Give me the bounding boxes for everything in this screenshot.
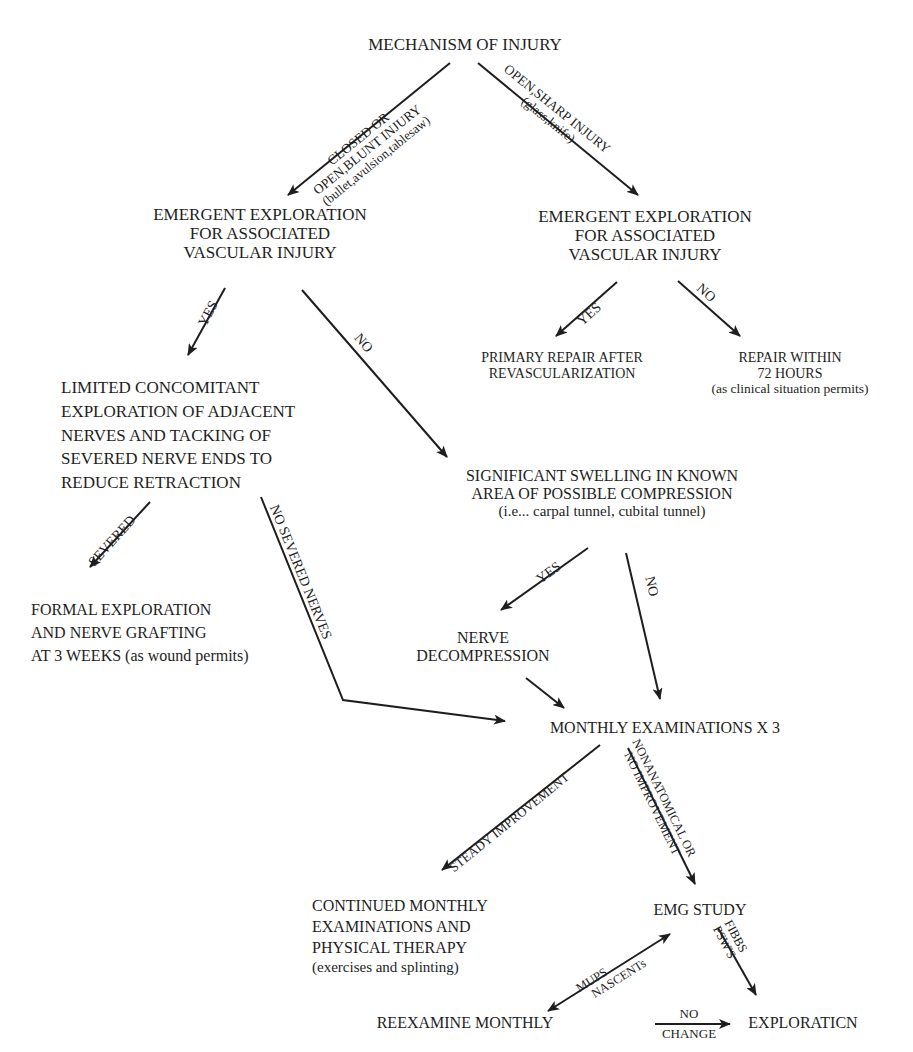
node-text: EXPLORATION OF ADJACENT	[61, 400, 295, 424]
node-text: EMERGENT EXPLORATION	[120, 205, 400, 224]
node-continued-monthly-examinations: CONTINUED MONTHLY EXAMINATIONS AND PHYSI…	[312, 896, 488, 978]
node-text: FORMAL EXPLORATION	[31, 598, 249, 621]
arrow-left-no	[302, 290, 447, 457]
node-emergent-exploration-right: EMERGENT EXPLORATION FOR ASSOCIATED VASC…	[510, 207, 780, 264]
node-reexamine-monthly: REEXAMINE MONTHLY	[365, 1014, 565, 1032]
node-text: NERVES AND TACKING OF	[61, 424, 295, 448]
node-repair-within-72-hours: REPAIR WITHIN 72 HOURS (as clinical situ…	[680, 350, 900, 396]
node-text: PHYSICAL THERAPY	[312, 938, 488, 959]
node-text: PRIMARY REPAIR AFTER	[462, 350, 662, 366]
node-text: EXPLORATICN	[733, 1014, 873, 1032]
node-significant-swelling: SIGNIFICANT SWELLING IN KNOWN AREA OF PO…	[432, 467, 772, 520]
node-limited-concomitant-exploration: LIMITED CONCOMITANT EXPLORATION OF ADJAC…	[61, 376, 295, 495]
node-text: MONTHLY EXAMINATIONS X 3	[520, 719, 810, 737]
edge-label-text: NO	[642, 575, 661, 598]
node-text: VASCULAR INJURY	[510, 245, 780, 264]
node-note: (i.e... carpal tunnel, cubital tunnel)	[432, 503, 772, 520]
node-text: EXAMINATIONS AND	[312, 917, 488, 938]
edge-label-no-change: NO CHANGE	[655, 1006, 723, 1043]
node-text: DECOMPRESSION	[398, 647, 568, 665]
edge-label-text: NO	[655, 1006, 723, 1022]
node-note: (as clinical situation permits)	[680, 381, 900, 396]
flowchart-arrows	[0, 0, 913, 1052]
node-text: REVASCULARIZATION	[462, 366, 662, 382]
node-nerve-decompression: NERVE DECOMPRESSION	[398, 629, 568, 665]
node-text: REDUCE RETRACTION	[61, 471, 295, 495]
node-text: NERVE	[398, 629, 568, 647]
node-text: 72 HOURS	[680, 366, 900, 382]
node-text: LIMITED CONCOMITANT	[61, 376, 295, 400]
node-text: REPAIR WITHIN	[680, 350, 900, 366]
edge-label-text: CHANGE	[655, 1026, 723, 1042]
node-text: AREA OF POSSIBLE COMPRESSION	[432, 485, 772, 503]
node-text: AND NERVE GRAFTING	[31, 621, 249, 644]
node-exploration: EXPLORATICN	[733, 1014, 873, 1032]
node-emergent-exploration-left: EMERGENT EXPLORATION FOR ASSOCIATED VASC…	[120, 205, 400, 262]
node-text: MECHANISM OF INJURY	[355, 35, 575, 54]
node-primary-repair: PRIMARY REPAIR AFTER REVASCULARIZATION	[462, 350, 662, 381]
arrow-no-severed-nerves	[261, 497, 505, 721]
node-text: EMG STUDY	[640, 901, 760, 919]
node-text: CONTINUED MONTHLY	[312, 896, 488, 917]
node-text: SIGNIFICANT SWELLING IN KNOWN	[432, 467, 772, 485]
node-emg-study: EMG STUDY	[640, 901, 760, 919]
node-text: FOR ASSOCIATED	[510, 226, 780, 245]
node-note: (exercises and splinting)	[312, 958, 488, 978]
node-text: SEVERED NERVE ENDS TO	[61, 447, 295, 471]
arrow-decompression-to-monthly	[526, 678, 564, 708]
node-text: VASCULAR INJURY	[120, 243, 400, 262]
node-mechanism-of-injury: MECHANISM OF INJURY	[355, 35, 575, 54]
node-text: AT 3 WEEKS (as wound permits)	[31, 644, 249, 667]
edge-label-swelling-no: NO	[642, 575, 661, 598]
node-monthly-examinations: MONTHLY EXAMINATIONS X 3	[520, 719, 810, 737]
node-text: REEXAMINE MONTHLY	[365, 1014, 565, 1032]
node-text: EMERGENT EXPLORATION	[510, 207, 780, 226]
node-text: FOR ASSOCIATED	[120, 224, 400, 243]
node-formal-exploration: FORMAL EXPLORATION AND NERVE GRAFTING AT…	[31, 598, 249, 668]
